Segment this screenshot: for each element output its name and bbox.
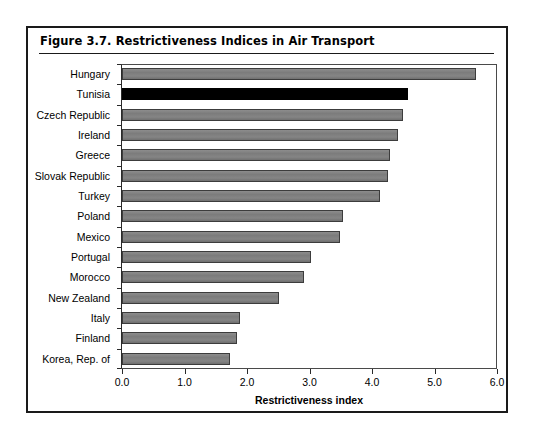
bar-row (122, 206, 497, 226)
bar-korea-rep-of (122, 353, 230, 365)
x-axis-tick-label: 0.0 (115, 376, 130, 388)
x-axis-tick-label: 5.0 (427, 376, 442, 388)
y-axis-label: Czech Republic (36, 109, 110, 121)
y-axis-label-row: Slovak Republic (28, 166, 116, 186)
bar-row (122, 105, 497, 125)
x-axis-tick (247, 369, 248, 374)
y-axis-label: Portugal (71, 251, 110, 263)
bar-row (122, 267, 497, 287)
bar-ireland (122, 129, 398, 141)
y-axis-label: Ireland (78, 129, 110, 141)
y-axis-label-row: Ireland (28, 125, 116, 145)
bar-row (122, 349, 497, 369)
x-axis-tick-label: 1.0 (177, 376, 192, 388)
y-axis-label-row: Poland (28, 206, 116, 226)
bar-row (122, 64, 497, 84)
x-axis-tick (122, 369, 123, 374)
x-axis-tick (185, 369, 186, 374)
y-axis-label: Turkey (78, 190, 110, 202)
bar-slovak-republic (122, 170, 388, 182)
y-axis-category-labels: HungaryTunisiaCzech RepublicIrelandGreec… (28, 64, 116, 369)
bar-morocco (122, 271, 304, 283)
figure-title: Figure 3.7. Restrictiveness Indices in A… (40, 34, 375, 48)
y-axis-label-row: Turkey (28, 186, 116, 206)
x-axis-tick-label: 3.0 (302, 376, 317, 388)
bar-hungary (122, 68, 476, 80)
y-axis-label: Hungary (70, 68, 110, 80)
x-axis-tick-label: 6.0 (490, 376, 505, 388)
x-axis-tick-label: 4.0 (365, 376, 380, 388)
x-axis-tick (435, 369, 436, 374)
y-axis-label: Greece (76, 149, 110, 161)
bar-row (122, 145, 497, 165)
bar-row (122, 166, 497, 186)
bar-row (122, 247, 497, 267)
bar-greece (122, 149, 390, 161)
bar-row (122, 288, 497, 308)
title-divider (39, 53, 494, 54)
bar-row (122, 328, 497, 348)
bar-finland (122, 332, 237, 344)
y-axis-label: Morocco (70, 271, 110, 283)
bar-row (122, 227, 497, 247)
bar-row (122, 308, 497, 328)
bar-italy (122, 312, 240, 324)
y-axis-label-row: Italy (28, 308, 116, 328)
y-axis-label: Mexico (77, 231, 110, 243)
y-axis-label: Tunisia (77, 88, 110, 100)
y-axis-label: New Zealand (48, 292, 110, 304)
y-axis-label-row: Mexico (28, 227, 116, 247)
y-axis-label-row: Morocco (28, 267, 116, 287)
y-axis-label: Finland (76, 332, 110, 344)
y-axis-label-row: Hungary (28, 64, 116, 84)
bar-row (122, 125, 497, 145)
x-axis-tick (310, 369, 311, 374)
y-axis-label-row: Tunisia (28, 84, 116, 104)
x-axis-ticks (121, 369, 497, 375)
y-axis-label-row: Greece (28, 145, 116, 165)
x-axis-tick (497, 369, 498, 374)
bar-tunisia (122, 88, 408, 100)
y-axis-label-row: Portugal (28, 247, 116, 267)
x-axis-title: Restrictiveness index (121, 394, 497, 406)
bar-series (122, 64, 497, 369)
y-axis-label: Italy (91, 312, 110, 324)
x-axis-tick-label: 2.0 (240, 376, 255, 388)
bar-poland (122, 210, 343, 222)
y-axis-label-row: Czech Republic (28, 105, 116, 125)
y-axis-label-row: Korea, Rep. of (28, 349, 116, 369)
bar-row (122, 186, 497, 206)
x-axis-tick-labels: 0.01.02.03.04.05.06.0 (121, 376, 497, 390)
x-axis-tick (372, 369, 373, 374)
figure-container: Figure 3.7. Restrictiveness Indices in A… (26, 26, 508, 413)
bar-czech-republic (122, 109, 403, 121)
y-axis-label: Slovak Republic (35, 170, 110, 182)
bar-new-zealand (122, 292, 279, 304)
bar-row (122, 84, 497, 104)
bar-turkey (122, 190, 380, 202)
y-axis-label-row: Finland (28, 328, 116, 348)
y-axis-label: Poland (77, 210, 110, 222)
y-axis-label: Korea, Rep. of (42, 353, 110, 365)
y-axis-label-row: New Zealand (28, 288, 116, 308)
bar-mexico (122, 231, 340, 243)
bar-portugal (122, 251, 311, 263)
